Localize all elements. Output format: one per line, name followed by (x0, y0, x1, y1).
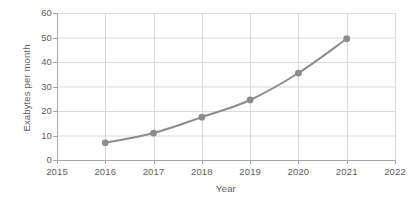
data-series-line (105, 39, 346, 143)
plot-area (0, 0, 408, 209)
data-point-markers (102, 35, 350, 146)
y-axis-ticks (53, 14, 57, 161)
horizontal-gridlines (57, 14, 395, 137)
line-chart: Exabytes per month 0102030405060 2015201… (0, 0, 408, 209)
